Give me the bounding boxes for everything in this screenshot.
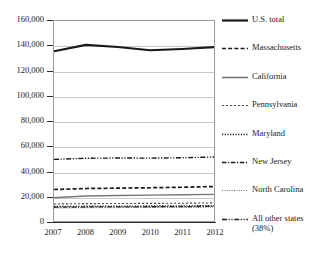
y-axis-tick-label: 100,000 bbox=[16, 91, 44, 100]
y-axis-tick-label: 160,000 bbox=[16, 15, 44, 24]
x-axis-line bbox=[53, 222, 216, 223]
legend-label: All other states (38%) bbox=[252, 213, 303, 233]
legend-label: U.S. total bbox=[252, 14, 284, 24]
legend-line-swatch bbox=[222, 214, 248, 225]
legend-label: New Jersey bbox=[252, 156, 291, 166]
x-axis-tick-label: 2010 bbox=[134, 228, 166, 237]
y-axis-tick-label: 140,000 bbox=[16, 40, 44, 49]
legend-item[interactable]: North Carolina bbox=[222, 184, 326, 196]
y-axis-tick-label: 40,000 bbox=[21, 167, 44, 176]
plot-area bbox=[53, 20, 215, 222]
legend-line-swatch bbox=[222, 43, 248, 54]
legend-line-swatch bbox=[222, 157, 248, 168]
chart-container: 160,000140,000120,000100,00080,00060,000… bbox=[0, 0, 326, 256]
legend-item[interactable]: U.S. total bbox=[222, 14, 326, 26]
legend-line-swatch bbox=[222, 185, 248, 196]
legend-line-swatch bbox=[222, 100, 248, 111]
y-axis-tick-label: 120,000 bbox=[16, 66, 44, 75]
legend-line-swatch bbox=[222, 15, 248, 26]
y-axis-tick-label: 0 bbox=[40, 217, 44, 226]
x-axis-tick-label: 2008 bbox=[69, 228, 101, 237]
series-line bbox=[54, 203, 214, 204]
legend-item[interactable]: New Jersey bbox=[222, 156, 326, 168]
series-line bbox=[54, 194, 214, 197]
legend-line-swatch bbox=[222, 129, 248, 140]
legend-label: Pennsylvania bbox=[252, 99, 297, 109]
series-line bbox=[54, 187, 214, 190]
legend-item[interactable]: Maryland bbox=[222, 128, 326, 140]
x-axis-tick-label: 2011 bbox=[167, 228, 199, 237]
x-axis-tick-label: 2009 bbox=[102, 228, 134, 237]
series-group bbox=[54, 21, 214, 221]
legend-line-swatch bbox=[222, 72, 248, 83]
y-axis-tick-label: 60,000 bbox=[21, 141, 44, 150]
y-axis-tick-label: 20,000 bbox=[21, 192, 44, 201]
legend-item[interactable]: Pennsylvania bbox=[222, 99, 326, 111]
legend-label: North Carolina bbox=[252, 184, 303, 194]
y-axis-tick-label: 80,000 bbox=[21, 116, 44, 125]
legend-label: Maryland bbox=[252, 128, 285, 138]
x-axis-tick-label: 2007 bbox=[37, 228, 69, 237]
legend-item[interactable]: California bbox=[222, 71, 326, 83]
y-axis-tick-mark bbox=[47, 222, 53, 223]
legend-item[interactable]: Massachusetts bbox=[222, 42, 326, 54]
series-line bbox=[54, 45, 214, 51]
legend-item[interactable]: All other states (38%) bbox=[222, 213, 326, 233]
legend-label: Massachusetts bbox=[252, 42, 301, 52]
series-line bbox=[54, 157, 214, 159]
legend-label: California bbox=[252, 71, 286, 81]
